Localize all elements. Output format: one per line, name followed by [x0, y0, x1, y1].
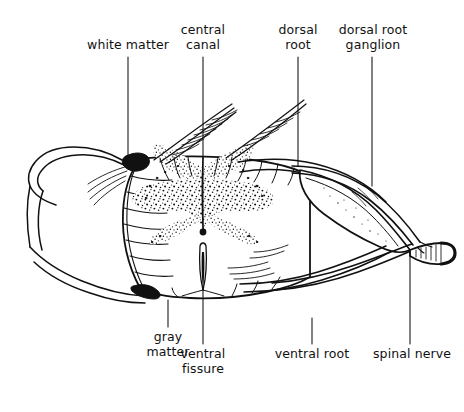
label-spinal-nerve: spinal nerve — [366, 346, 458, 361]
label-ventral-fissure: ventral fissure — [166, 346, 240, 376]
label-dorsal-root-ganglion: dorsal root ganglion — [325, 22, 421, 52]
spinal-nerve — [410, 242, 455, 264]
ventral-ink-wedge — [131, 285, 160, 299]
label-central-canal: central canal — [163, 22, 243, 52]
dorsal-ink-wedge — [122, 153, 149, 171]
ventral-fissure-cleft — [182, 243, 224, 296]
label-ventral-root: ventral root — [266, 346, 358, 361]
spinal-cord-diagram: white matter central canal dorsal root d… — [0, 0, 464, 412]
label-dorsal-root: dorsal root — [263, 22, 333, 52]
